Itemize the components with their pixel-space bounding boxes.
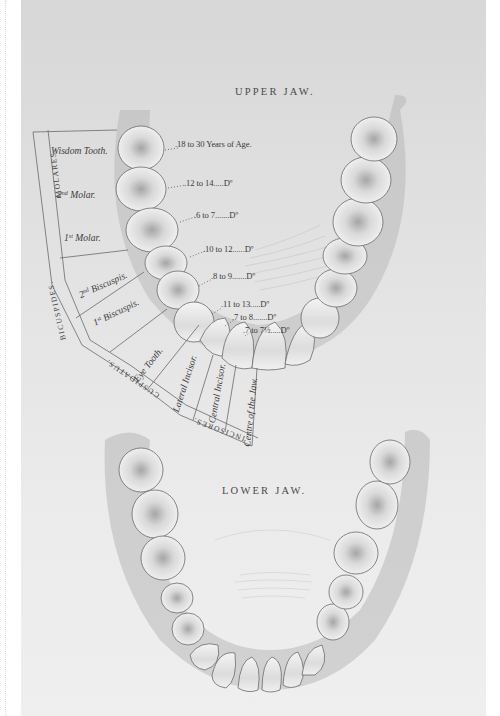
age-eye-tooth: .11 to 13.....Dº — [221, 299, 269, 309]
label-text: Molar. — [73, 232, 101, 243]
age-first-bicuspis: .8 to 9.......Dº — [211, 271, 255, 281]
age-first-molar: .6 to 7.......Dº — [194, 210, 238, 220]
jaw-illustration — [21, 0, 486, 716]
age-second-bicuspis: .10 to 12......Dº — [203, 244, 253, 254]
label-wisdom-tooth: Wisdom Tooth. — [51, 145, 108, 156]
lower-floor-striations — [215, 530, 330, 598]
age-central-incisor: .7 to 7½.....Dº — [243, 325, 289, 335]
upper-jaw-title: UPPER JAW. — [235, 86, 315, 97]
age-wisdom-tooth: .18 to 30 Years of Age. — [175, 139, 251, 149]
page-margin-rule — [5, 0, 6, 716]
lower-jaw-title: LOWER JAW. — [222, 485, 306, 496]
anatomical-plate: UPPER JAW. LOWER JAW. .18 to 30 Years of… — [21, 0, 486, 716]
label-first-molar: 1st Molar. — [64, 232, 101, 243]
age-lateral-incisor: .7 to 8.......Dº — [232, 312, 276, 322]
label-text: Molar. — [68, 189, 96, 200]
label-second-molar: 2nd Molar. — [57, 189, 96, 200]
age-second-molar: .12 to 14.....Dº — [184, 178, 232, 188]
